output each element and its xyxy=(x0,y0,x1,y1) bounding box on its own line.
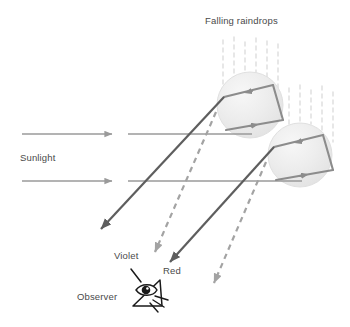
label-sunlight: Sunlight xyxy=(20,152,56,163)
violet-ray-upper xyxy=(155,112,216,252)
diagram-canvas xyxy=(0,0,350,327)
label-red: Red xyxy=(163,265,181,276)
lower-raindrop xyxy=(268,123,332,187)
rainbow-formation-diagram: Falling raindrops Sunlight Violet Red Ob… xyxy=(0,0,350,327)
label-falling-raindrops: Falling raindrops xyxy=(205,15,278,26)
label-violet: Violet xyxy=(114,250,139,261)
upper-raindrop xyxy=(217,72,283,138)
red-ray-upper xyxy=(101,97,224,229)
label-observer: Observer xyxy=(77,291,117,302)
red-ray-lower xyxy=(170,147,274,262)
